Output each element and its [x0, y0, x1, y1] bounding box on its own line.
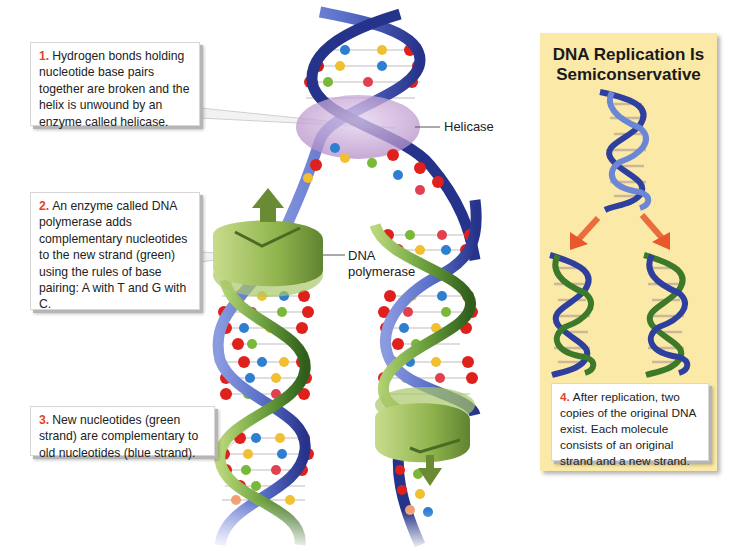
panel-title-line1: DNA Replication Is: [540, 45, 717, 65]
step-number: 1.: [39, 49, 49, 63]
dna-polymerase-label: DNA polymerase: [348, 248, 415, 280]
step-text: An enzyme called DNA polymerase adds com…: [39, 199, 187, 311]
helicase-label: Helicase: [444, 119, 494, 135]
callout-step-1: 1.Hydrogen bonds holding nucleotide base…: [30, 42, 200, 126]
step-text: New nucleotides (green strand) are compl…: [39, 413, 198, 460]
step-number: 2.: [39, 199, 49, 213]
step-text: Hydrogen bonds holding nucleotide base p…: [39, 49, 189, 129]
dna-polymerase-label-line2: polymerase: [348, 264, 415, 280]
step-text: After replication, two copies of the ori…: [560, 390, 696, 468]
dna-polymerase-upper: [213, 188, 323, 297]
step-number: 4.: [560, 390, 570, 404]
callout-step-3: 3.New nucleotides (green strand) are com…: [30, 406, 215, 456]
helicase-enzyme: [296, 95, 420, 159]
callout-step-4: 4.After replication, two copies of the o…: [551, 383, 709, 461]
dna-polymerase-label-line1: DNA: [348, 248, 415, 264]
dna-polymerase-lower: [375, 387, 475, 486]
callout-step-2: 2.An enzyme called DNA polymerase adds c…: [30, 192, 200, 310]
panel-title: DNA Replication Is Semiconservative: [540, 45, 717, 85]
left-daughter-helix: [200, 260, 330, 551]
panel-title-line2: Semiconservative: [540, 65, 717, 85]
step-number: 3.: [39, 413, 49, 427]
